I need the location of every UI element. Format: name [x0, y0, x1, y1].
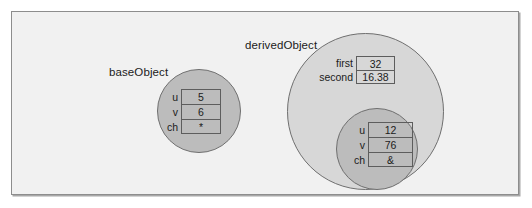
- member-row: u 12: [351, 122, 413, 137]
- member-row: u 5: [164, 89, 221, 104]
- object-layout-diagram: baseObject u 5 v 6 ch * derivedObject fi…: [0, 0, 532, 208]
- member-value: 16.38: [356, 70, 395, 84]
- base-subobject-member-table: u 12 v 76 ch &: [351, 122, 413, 167]
- derived-object-member-table: first 32 second 16.38: [314, 56, 395, 84]
- member-name: second: [314, 70, 356, 84]
- member-name: first: [314, 56, 356, 70]
- member-name: u: [351, 122, 368, 137]
- member-row: first 32: [314, 56, 395, 70]
- member-value: 76: [368, 137, 413, 152]
- member-value: 6: [181, 104, 221, 119]
- diagram-frame: baseObject u 5 v 6 ch * derivedObject fi…: [11, 11, 519, 195]
- member-row: ch &: [351, 152, 413, 167]
- member-name: v: [164, 104, 181, 119]
- derived-object-label: derivedObject: [245, 39, 317, 51]
- member-row: v 6: [164, 104, 221, 119]
- member-value: 5: [181, 89, 221, 104]
- base-object-label: baseObject: [109, 66, 168, 78]
- member-value: 32: [356, 56, 395, 70]
- member-name: ch: [164, 119, 181, 134]
- member-name: ch: [351, 152, 368, 167]
- member-value: 12: [368, 122, 413, 137]
- base-object-member-table: u 5 v 6 ch *: [164, 89, 221, 134]
- member-row: ch *: [164, 119, 221, 134]
- member-name: u: [164, 89, 181, 104]
- member-row: second 16.38: [314, 70, 395, 84]
- member-row: v 76: [351, 137, 413, 152]
- member-value: &: [368, 152, 413, 167]
- member-value: *: [181, 119, 221, 134]
- member-name: v: [351, 137, 368, 152]
